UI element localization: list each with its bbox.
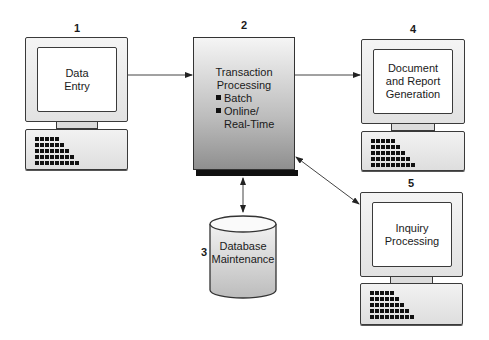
node-1-stand (56, 121, 98, 129)
node-4-number: 4 (403, 23, 423, 35)
node-2-shadow (196, 170, 298, 176)
node-4-screen: Document and Report Generation (373, 49, 453, 114)
node-5-keyboard (360, 283, 463, 325)
node-1-label: Data Entry (64, 67, 90, 93)
node-1-number: 1 (67, 22, 87, 34)
node-1-keyboard (25, 129, 128, 170)
node-2-process-box: Transaction Processing Batch Online/ Rea… (193, 37, 295, 170)
node-4-keyboard (361, 131, 465, 171)
square-bullet-icon (216, 95, 221, 100)
bullet-online-continuation: Real-Time (216, 118, 274, 131)
node-5-label: Inquiry Processing (385, 222, 439, 248)
node-2-number: 2 (234, 19, 254, 31)
bullet-batch: Batch (216, 92, 274, 105)
keyboard-keys-icon (370, 291, 415, 321)
bullet-online: Online/ (216, 105, 274, 118)
arrow-2-to-5 (296, 157, 359, 204)
node-5-screen: Inquiry Processing (372, 202, 452, 267)
square-bullet-icon (216, 108, 221, 113)
node-1-monitor: Data Entry (25, 37, 128, 122)
node-2-title: Transaction Processing (194, 66, 294, 92)
node-4-monitor: Document and Report Generation (361, 39, 465, 124)
node-5-monitor: Inquiry Processing (360, 192, 463, 277)
node-5-number: 5 (401, 177, 421, 189)
keyboard-keys-icon (35, 137, 80, 167)
node-2-bullets: Batch Online/ Real-Time (216, 92, 274, 131)
node-4-label: Document and Report Generation (386, 62, 440, 101)
node-1-screen: Data Entry (37, 47, 117, 112)
node-4-stand (391, 123, 435, 131)
keyboard-keys-icon (371, 139, 416, 169)
node-3-label: Database Maintenance (210, 240, 276, 266)
